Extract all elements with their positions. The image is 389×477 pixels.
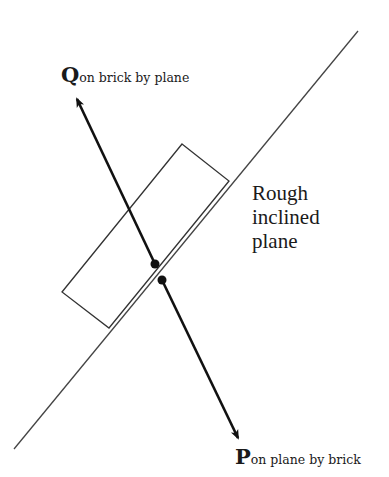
plane-label: Rough inclined plane (252, 181, 320, 253)
force-p-origin-dot (158, 276, 167, 285)
force-q-label: Qon brick by plane (61, 62, 189, 87)
diagram-canvas: Qon brick by plane Rough inclined plane … (0, 0, 389, 477)
force-q-subscript: on brick by plane (79, 70, 189, 85)
force-p-arrow (162, 280, 238, 438)
plane-label-line-1: Rough (252, 181, 320, 205)
plane-label-line-3: plane (252, 229, 320, 253)
diagram-svg (0, 0, 389, 477)
plane-label-line-2: inclined (252, 205, 320, 229)
force-q-arrow (77, 99, 155, 264)
force-p-label: Pon plane by brick (235, 444, 361, 469)
force-q-symbol: Q (61, 62, 79, 87)
brick-rectangle (62, 144, 229, 328)
force-q-origin-dot (151, 260, 160, 269)
force-p-symbol: P (235, 444, 251, 469)
force-p-subscript: on plane by brick (251, 452, 361, 467)
